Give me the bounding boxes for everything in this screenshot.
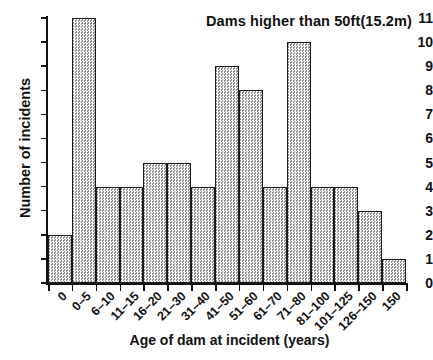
x-tick — [334, 285, 336, 291]
bar — [72, 18, 96, 283]
bar — [358, 211, 382, 283]
x-tick — [167, 285, 169, 291]
x-tick — [311, 285, 313, 291]
bar — [263, 187, 287, 283]
y-tick — [41, 41, 46, 43]
x-tick — [382, 285, 384, 291]
bar — [96, 187, 120, 283]
y-tick — [41, 114, 46, 116]
x-tick — [287, 285, 289, 291]
x-tick — [215, 285, 217, 291]
y-tick — [41, 65, 46, 67]
bar — [215, 66, 239, 283]
y-tick — [41, 162, 46, 164]
y-tick — [41, 186, 46, 188]
bar — [334, 187, 358, 283]
x-tick — [239, 285, 241, 291]
y-tick — [41, 234, 46, 236]
x-tick — [96, 285, 98, 291]
y-tick — [41, 258, 46, 260]
y-tick — [41, 90, 46, 92]
plot-area — [48, 18, 406, 283]
x-tick-label: 0 — [55, 289, 70, 304]
bar — [311, 187, 335, 283]
x-tick — [406, 285, 408, 291]
x-tick — [191, 285, 193, 291]
x-tick — [263, 285, 265, 291]
x-tick-label: 150 — [379, 289, 404, 314]
bar — [167, 163, 191, 283]
x-tick — [72, 285, 74, 291]
y-axis-title: Number of incidents — [17, 28, 33, 268]
x-tick — [143, 285, 145, 291]
y-tick — [41, 17, 46, 19]
y-tick — [41, 138, 46, 140]
x-axis-title: Age of dam at incident (years) — [0, 332, 433, 348]
x-axis-line — [46, 283, 408, 285]
bar — [382, 259, 406, 283]
bar — [239, 90, 263, 283]
bar — [120, 187, 144, 283]
bar — [48, 235, 72, 283]
x-tick — [120, 285, 122, 291]
y-tick — [41, 282, 46, 284]
bar — [191, 187, 215, 283]
x-tick — [48, 285, 50, 291]
histogram-figure: Dams higher than 50ft(15.2m) Number of i… — [0, 0, 433, 360]
x-tick — [358, 285, 360, 291]
y-tick — [41, 210, 46, 212]
bar — [287, 42, 311, 283]
bar — [143, 163, 167, 283]
